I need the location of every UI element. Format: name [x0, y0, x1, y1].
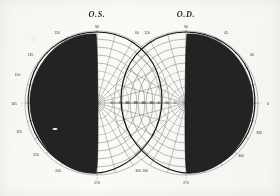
- svg-text:60: 60: [135, 31, 139, 35]
- od-scotoma-region: [185, 34, 253, 173]
- svg-text:270: 270: [94, 181, 100, 185]
- svg-text:70: 70: [133, 101, 137, 105]
- svg-text:120: 120: [144, 31, 150, 35]
- svg-text:30: 30: [250, 53, 254, 57]
- chart-os: 80 70 60 50 40 30 90 120 135 150 165 195…: [11, 10, 173, 185]
- perimetry-figure: 80 70 60 50 40 30 90 120 135 150 165 195…: [0, 0, 280, 196]
- svg-text:210: 210: [33, 153, 39, 157]
- svg-text:80: 80: [125, 101, 129, 105]
- svg-text:270: 270: [183, 181, 189, 185]
- svg-text:120: 120: [54, 31, 60, 35]
- svg-text:40: 40: [157, 101, 161, 105]
- svg-text:60: 60: [141, 101, 145, 105]
- svg-text:20: 20: [173, 101, 177, 105]
- svg-text:330: 330: [256, 131, 262, 135]
- svg-text:150: 150: [15, 73, 21, 77]
- svg-text:300: 300: [238, 154, 244, 158]
- svg-text:50: 50: [149, 101, 153, 105]
- svg-text:90: 90: [95, 25, 99, 29]
- svg-text:195: 195: [16, 130, 22, 134]
- svg-text:300: 300: [135, 169, 141, 173]
- os-title: O.S.: [89, 10, 106, 19]
- os-scotoma-region: [30, 34, 98, 173]
- svg-text:135: 135: [28, 53, 34, 57]
- svg-text:90: 90: [184, 25, 188, 29]
- svg-text:165: 165: [11, 102, 17, 106]
- svg-text:240: 240: [55, 169, 61, 173]
- svg-text:30: 30: [165, 101, 169, 105]
- svg-text:0: 0: [267, 102, 269, 106]
- os-blind-spot-marker: [52, 128, 57, 130]
- od-title: O.D.: [177, 10, 195, 19]
- chart-od: 80 70 60 50 40 30 20 90 120 45 30 0 330 …: [110, 10, 269, 185]
- svg-text:45: 45: [224, 31, 228, 35]
- chart-sheet: 80 70 60 50 40 30 90 120 135 150 165 195…: [0, 0, 280, 196]
- svg-text:240: 240: [142, 169, 148, 173]
